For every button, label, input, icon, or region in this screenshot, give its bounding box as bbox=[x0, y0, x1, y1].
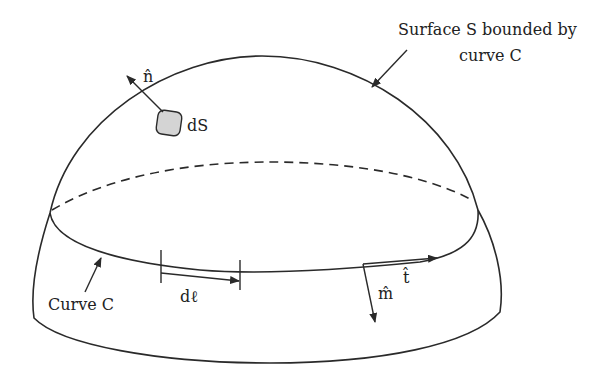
curve-c-front bbox=[50, 210, 478, 272]
line-element-label: dℓ bbox=[180, 287, 198, 306]
surface-element-label: dS bbox=[187, 116, 208, 135]
lower-body-outline bbox=[33, 210, 501, 363]
line-element-arrow bbox=[161, 273, 239, 281]
curve-callout-arrow bbox=[85, 258, 101, 292]
tangent-vector-label: t̂ bbox=[402, 267, 410, 287]
dome-surface-outline bbox=[50, 56, 478, 213]
surface-callout-line2: curve C bbox=[459, 46, 522, 65]
curve-callout-label: Curve C bbox=[48, 295, 114, 314]
normal-vector-label: n̂ bbox=[143, 67, 153, 86]
surface-callout-arrow bbox=[372, 50, 407, 87]
curve-c-back-dashed bbox=[52, 162, 472, 210]
surface-diagram: Surface S bounded by curve C dS n̂ Curve… bbox=[0, 0, 616, 377]
surface-element-patch bbox=[155, 109, 182, 136]
surface-callout-line1: Surface S bounded by bbox=[398, 20, 577, 39]
m-vector-label: m̂ bbox=[378, 284, 393, 303]
m-vector-arrow bbox=[363, 264, 375, 322]
